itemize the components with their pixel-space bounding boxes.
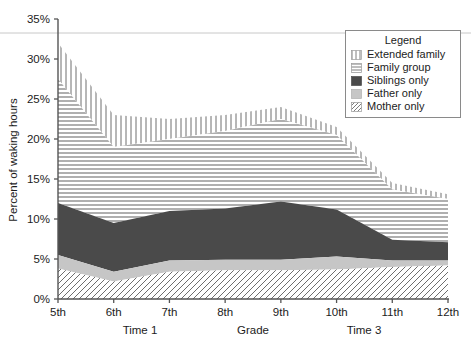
x-secondary-label-time1: Time 1 [123, 324, 158, 336]
y-axis-title: Percent of waking hours [7, 98, 19, 222]
y-tick-label: 30% [27, 53, 50, 65]
legend-swatch-solid-light-gray-icon [351, 89, 362, 99]
legend-item-label: Family group [367, 61, 431, 74]
y-tick-label: 35% [27, 13, 50, 25]
legend-item-label: Siblings only [367, 74, 429, 87]
legend-title: Legend [351, 34, 455, 47]
legend-item[interactable]: Mother only [351, 100, 455, 113]
x-tick-label: 11th [382, 306, 404, 318]
x-secondary-label-time3: Time 3 [347, 324, 382, 336]
y-tick-label: 15% [27, 173, 50, 185]
legend-items: Extended familyFamily groupSiblings only… [351, 48, 455, 113]
y-tick-label: 10% [27, 213, 50, 225]
y-tick-label: 0% [33, 293, 50, 305]
legend-item-label: Father only [367, 87, 422, 100]
y-tick-labels: 0%5%10%15%20%25%30%35% [27, 13, 50, 305]
y-tick-label: 25% [27, 93, 50, 105]
y-tick-label: 5% [33, 253, 50, 265]
x-tick-label: 7th [161, 306, 177, 318]
chart-container: 0%5%10%15%20%25%30%35% 5th6th7th8th9th10… [0, 0, 471, 344]
legend-item[interactable]: Siblings only [351, 74, 455, 87]
legend-item-label: Mother only [367, 100, 424, 113]
legend-swatch-vertical-lines-icon [351, 50, 362, 60]
legend-swatch-horizontal-lines-icon [351, 63, 362, 73]
x-tick-label: 6th [106, 306, 122, 318]
legend: Legend Extended familyFamily groupSiblin… [345, 30, 461, 118]
y-tick-label: 20% [27, 133, 50, 145]
legend-item[interactable]: Extended family [351, 48, 455, 61]
x-tick-label: 9th [273, 306, 289, 318]
legend-item-label: Extended family [367, 48, 445, 61]
x-tick-labels: 5th6th7th8th9th10th11th12th [50, 306, 459, 318]
x-tick-label: 5th [50, 306, 66, 318]
legend-item[interactable]: Family group [351, 61, 455, 74]
x-tick-label: 10th [325, 306, 347, 318]
legend-swatch-solid-dark-gray-icon [351, 76, 362, 86]
x-axis-title: Grade [237, 324, 269, 336]
legend-swatch-diagonal-lines-icon [351, 102, 362, 112]
legend-item[interactable]: Father only [351, 87, 455, 100]
x-tick-label: 8th [217, 306, 233, 318]
x-tick-label: 12th [437, 306, 459, 318]
